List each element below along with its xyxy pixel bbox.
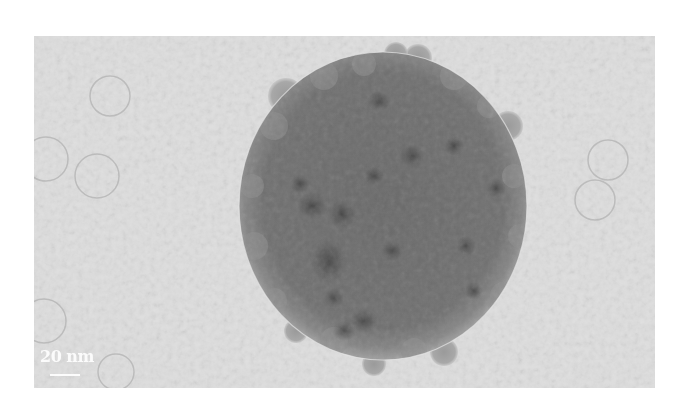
tem-micrograph: 20 nm [34, 36, 655, 388]
micrograph-canvas [34, 36, 655, 388]
scale-bar [50, 374, 80, 376]
scale-bar-label: 20 nm [40, 347, 94, 366]
